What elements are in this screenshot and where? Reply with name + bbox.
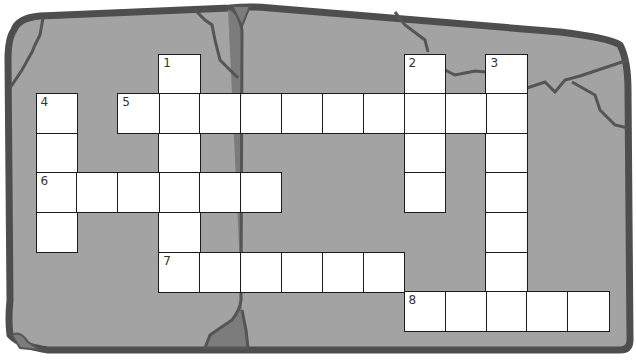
- clue-number: 2: [409, 57, 417, 69]
- crossword-cell[interactable]: [199, 172, 241, 213]
- crossword-cell[interactable]: 3: [485, 54, 527, 95]
- crossword-cell[interactable]: 7: [158, 252, 200, 293]
- crossword-cell[interactable]: 6: [36, 172, 78, 213]
- crossword-cell[interactable]: [404, 133, 446, 174]
- crossword-cell[interactable]: [445, 93, 487, 134]
- crossword-cell[interactable]: [158, 172, 200, 213]
- crossword-cell[interactable]: [404, 93, 446, 134]
- crossword-cell[interactable]: [240, 252, 282, 293]
- clue-number: 7: [163, 255, 171, 267]
- crossword-cell[interactable]: [117, 172, 159, 213]
- crossword-cell[interactable]: [485, 93, 527, 134]
- crossword-cell[interactable]: [76, 172, 118, 213]
- crossword-cell[interactable]: 1: [158, 54, 200, 95]
- crossword-cell[interactable]: [36, 133, 78, 174]
- crossword-cell[interactable]: [240, 93, 282, 134]
- crossword-cell[interactable]: [485, 172, 527, 213]
- crossword-cell[interactable]: [445, 291, 487, 332]
- clue-number: 6: [41, 175, 49, 187]
- crossword-cell[interactable]: [567, 291, 609, 332]
- crossword-cell[interactable]: [281, 93, 323, 134]
- crossword-cell[interactable]: [158, 133, 200, 174]
- clue-number: 4: [41, 96, 49, 108]
- crossword-cell[interactable]: [199, 252, 241, 293]
- crossword-cell[interactable]: [363, 93, 405, 134]
- crossword-cell[interactable]: 4: [36, 93, 78, 134]
- crossword-cell[interactable]: [281, 252, 323, 293]
- crossword-cell[interactable]: [363, 252, 405, 293]
- crossword-cell[interactable]: [404, 172, 446, 213]
- crossword-cell[interactable]: 2: [404, 54, 446, 95]
- clue-number: 5: [122, 96, 130, 108]
- crossword-cell[interactable]: [158, 93, 200, 134]
- crossword-cell[interactable]: [240, 172, 282, 213]
- crossword-cell[interactable]: 5: [117, 93, 159, 134]
- crossword-grid: 17234658: [0, 0, 636, 364]
- clue-number: 8: [409, 294, 417, 306]
- crossword-cell[interactable]: [485, 212, 527, 253]
- crossword-cell[interactable]: [526, 291, 568, 332]
- crossword-cell[interactable]: [158, 212, 200, 253]
- crossword-cell[interactable]: [485, 291, 527, 332]
- crossword-cell[interactable]: [485, 133, 527, 174]
- clue-number: 1: [163, 57, 171, 69]
- crossword-cell[interactable]: [485, 252, 527, 293]
- crossword-cell[interactable]: 8: [404, 291, 446, 332]
- crossword-cell[interactable]: [199, 93, 241, 134]
- crossword-cell[interactable]: [322, 93, 364, 134]
- crossword-cell[interactable]: [36, 212, 78, 253]
- crossword-cell[interactable]: [322, 252, 364, 293]
- clue-number: 3: [490, 57, 498, 69]
